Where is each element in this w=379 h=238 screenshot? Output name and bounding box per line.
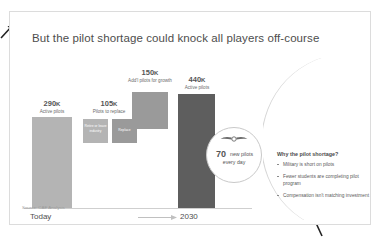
axis-label-today: Today — [30, 212, 51, 221]
bar-value-440k: 440K — [170, 75, 224, 84]
bar-caption-active-pilots-2030: Active pilots — [170, 85, 224, 91]
bar-value-150k: 150K — [124, 68, 176, 77]
bar-caption-pilots-to-replace: Pilots to replace — [78, 109, 140, 115]
callout-line-1: new pilots — [230, 151, 253, 157]
list-item: Fewer students are completing pilot prog… — [277, 174, 369, 188]
bar-segment-retire-or-leave-industry[interactable]: Retire or leave industry — [83, 119, 108, 143]
source-note: Source: CAE Analysis — [22, 205, 65, 210]
bar-addl-pilots-for-growth[interactable] — [132, 92, 168, 129]
callout-new-pilots-per-day: 70 new pilots every day — [206, 127, 262, 183]
bar-value-290k: 290K — [24, 99, 80, 108]
callout-line-2: every day — [207, 159, 261, 165]
bar-segment-label-retire: Retire or leave industry — [83, 124, 108, 133]
timeline-arrow-icon — [138, 214, 178, 221]
callout-number: 70 — [216, 149, 226, 159]
list-item: Compensation isn't matching investment — [277, 193, 369, 200]
pilot-wings-icon — [220, 135, 248, 143]
why-shortage-panel: Why the pilot shortage? Military is shor… — [263, 58, 371, 220]
bar-active-pilots-today[interactable] — [32, 117, 72, 208]
list-item: Military is short on pilots — [277, 162, 369, 169]
bar-value-105k: 105K — [78, 99, 140, 108]
bar-caption-active-pilots-today: Active pilots — [24, 109, 80, 115]
axis-label-2030: 2030 — [180, 212, 198, 221]
bar-caption-addl-pilots-for-growth: Add'l pilots for growth — [124, 78, 176, 84]
panel-title: Why the pilot shortage? — [277, 151, 338, 157]
panel-bullet-list: Military is short on pilots Fewer studen… — [277, 162, 369, 205]
slide-canvas: But the pilot shortage could knock all p… — [9, 11, 371, 225]
page-title: But the pilot shortage could knock all p… — [32, 32, 319, 44]
